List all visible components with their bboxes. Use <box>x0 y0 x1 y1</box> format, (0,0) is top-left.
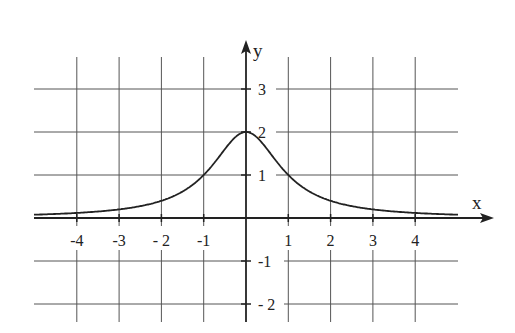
y-tick-label: 1 <box>258 167 266 184</box>
y-tick-label: -1 <box>258 253 271 270</box>
x-tick-label: - 2 <box>153 232 170 249</box>
y-axis-label: y <box>253 40 263 61</box>
x-tick-label: 3 <box>369 232 377 249</box>
y-tick-label: 3 <box>258 81 266 98</box>
x-tick-label: 1 <box>284 232 292 249</box>
tick-labels: -4-3- 2-11234321-1- 2 <box>70 81 419 313</box>
x-tick-label: -1 <box>197 232 210 249</box>
x-tick-label: -3 <box>112 232 125 249</box>
x-axis-label: x <box>472 192 482 213</box>
function-graph: -4-3- 2-11234321-1- 2 x y <box>0 0 515 333</box>
y-tick-label: - 2 <box>258 296 275 313</box>
x-tick-label: -4 <box>70 232 83 249</box>
x-tick-label: 2 <box>327 232 335 249</box>
x-tick-label: 4 <box>411 232 419 249</box>
